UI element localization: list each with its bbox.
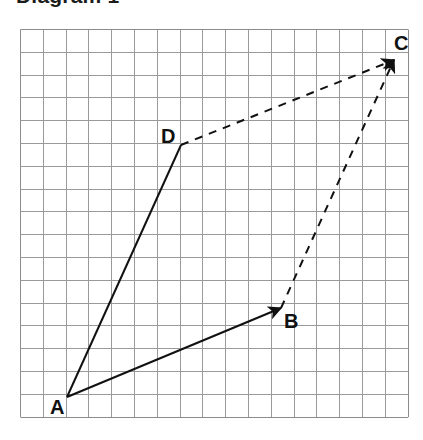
grid-layer [21,30,409,418]
vertex-label-layer: ABCD [50,32,408,418]
vertex-label-a: A [50,396,64,418]
vertex-label-d: D [161,125,175,147]
figure-root: Diagram 1 ABCD [0,0,423,440]
vector-ad [67,145,181,397]
vector-diagram: ABCD [0,0,423,440]
vertex-label-b: B [284,310,298,332]
vector-layer [67,60,394,397]
vertex-label-c: C [394,32,408,54]
